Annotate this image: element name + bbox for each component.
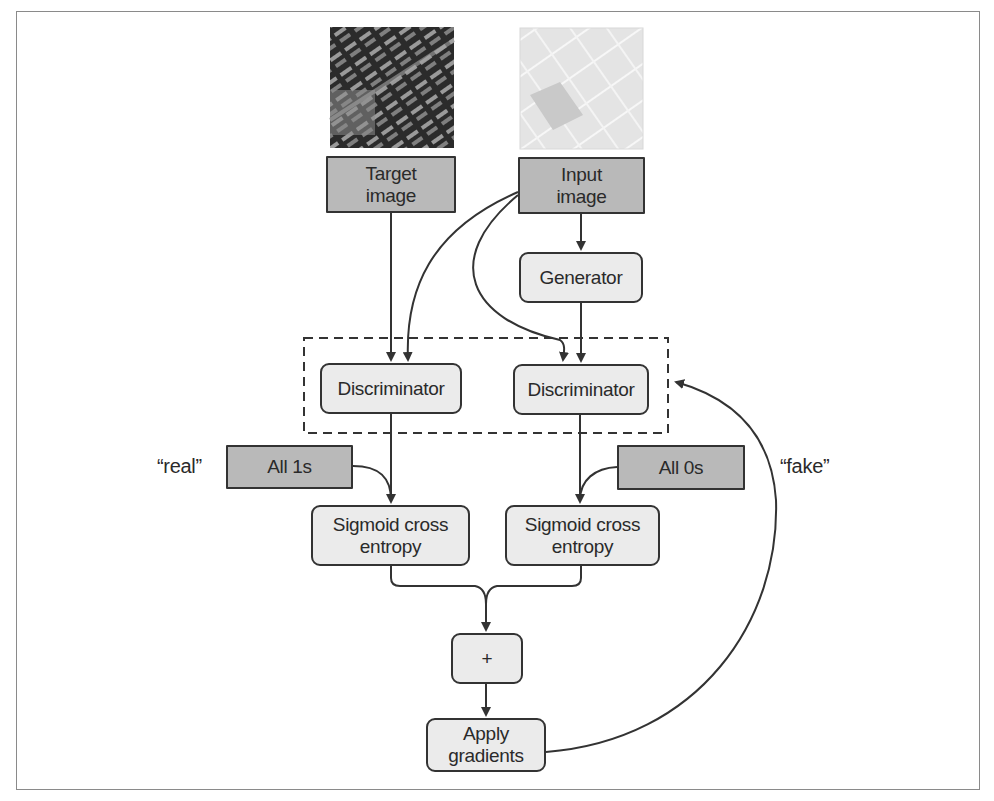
input-image-node: Input image: [518, 157, 645, 214]
generator-label: Generator: [540, 267, 623, 289]
all-ones-label: All 1s: [267, 456, 312, 478]
discriminator-real-label: Discriminator: [338, 378, 445, 400]
apply-gradients-label: Apply gradients: [448, 723, 523, 767]
edge-zeros-to-sigmoid: [580, 467, 617, 500]
target-photo: [330, 27, 454, 148]
generator-node: Generator: [519, 252, 643, 303]
target-image-node: Target image: [326, 156, 456, 213]
sum-label: +: [482, 648, 493, 670]
input-image-label: Input image: [556, 164, 606, 208]
target-image-label: Target image: [365, 163, 416, 207]
sigmoid-fake-label: Sigmoid cross entropy: [525, 514, 640, 558]
edge-ones-to-sigmoid: [353, 466, 391, 500]
all-zeros-node: All 0s: [617, 445, 745, 490]
discriminator-real-node: Discriminator: [320, 363, 462, 414]
sigmoid-real-label: Sigmoid cross entropy: [333, 514, 448, 558]
sum-node: +: [451, 633, 523, 684]
discriminator-fake-label: Discriminator: [528, 379, 635, 401]
real-annotation: “real”: [157, 455, 202, 478]
edge-input-to-disc-real: [408, 192, 518, 360]
discriminator-fake-node: Discriminator: [513, 364, 649, 415]
all-zeros-label: All 0s: [659, 457, 704, 479]
input-photo: [520, 28, 643, 149]
apply-gradients-node: Apply gradients: [426, 718, 546, 772]
fake-annotation: “fake”: [780, 455, 829, 478]
sigmoid-fake-node: Sigmoid cross entropy: [505, 505, 660, 566]
sigmoid-real-node: Sigmoid cross entropy: [311, 505, 470, 566]
edge-sigmoids-to-sum: [391, 566, 581, 604]
all-ones-node: All 1s: [226, 445, 353, 489]
